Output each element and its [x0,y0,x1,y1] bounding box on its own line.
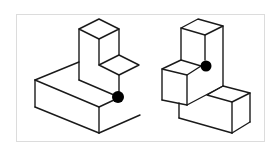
right-cube-top [162,60,201,75]
left-base-top-right [99,100,114,107]
left-step-top [99,55,139,75]
left-base-back-edge [35,62,79,80]
left-base-bottom-left [35,107,99,133]
isometric-diagram [0,0,280,153]
left-figure [35,19,140,133]
right-figure [162,19,250,133]
right-slab-bottom-left [179,118,232,133]
right-cube-bottom-left [162,100,187,105]
left-inner-edge [79,80,114,95]
right-slab-top [207,86,250,102]
right-marker-dot [201,61,212,72]
left-column-top [79,19,119,39]
right-slab-bottom-right [232,122,250,133]
left-base-bottom-right [99,115,140,133]
left-marker-dot [112,91,124,103]
right-column-top [181,19,223,35]
